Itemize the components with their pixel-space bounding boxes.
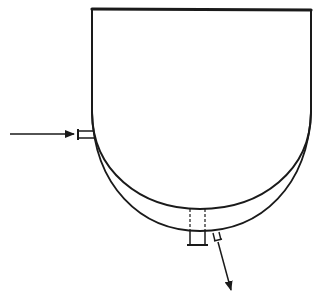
vessel-inner-wall [92, 9, 311, 209]
jacket-outer-wall [92, 112, 311, 231]
vessel-top-rim [92, 9, 311, 10]
outlet-nozzle [213, 232, 222, 241]
outlet-arrow [218, 242, 231, 290]
diagram-svg [0, 0, 320, 300]
inlet-nozzle [78, 129, 94, 140]
bottom-drain-nozzle [187, 209, 208, 245]
jacketed-vessel-diagram: Open-top vessel with hemispherical botto… [0, 0, 320, 300]
